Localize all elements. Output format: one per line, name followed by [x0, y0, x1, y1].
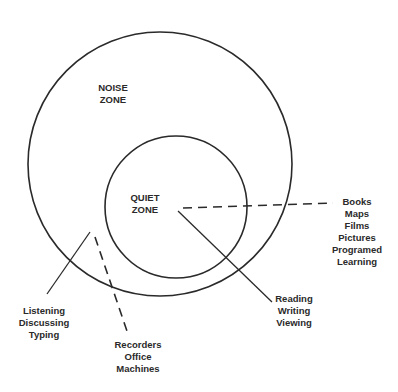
- noise-equipment-item: Recorders: [112, 339, 164, 351]
- noise-equipment-callout: Recorders Office Machines: [112, 339, 164, 375]
- noise-equipment-item: Office: [112, 351, 164, 363]
- quiet-zone-label: QUIET ZONE: [127, 192, 163, 216]
- quiet-activity-item: Viewing: [271, 317, 317, 329]
- noise-activity-item: Discussing: [15, 317, 73, 329]
- noise-zone-label-line: ZONE: [95, 94, 131, 106]
- quiet-activity-item: Reading: [271, 293, 317, 305]
- noise-zone-label-line: NOISE: [95, 82, 131, 94]
- noise-equipment-leader-line: [95, 237, 128, 334]
- media-item: Learning: [328, 256, 386, 268]
- quiet-activity-item: Writing: [271, 305, 317, 317]
- media-item: Programed: [328, 244, 386, 256]
- zone-diagram: NOISE ZONE QUIET ZONE Books Maps Films P…: [0, 0, 398, 392]
- noise-activity-item: Listening: [15, 305, 73, 317]
- media-item: Films: [328, 220, 386, 232]
- noise-activities-callout: Listening Discussing Typing: [15, 305, 73, 341]
- noise-activity-item: Typing: [15, 329, 73, 341]
- noise-zone-label: NOISE ZONE: [95, 82, 131, 106]
- media-callout: Books Maps Films Pictures Programed Lear…: [328, 196, 386, 268]
- noise-zone-circle: [28, 32, 292, 296]
- quiet-activities-callout: Reading Writing Viewing: [271, 293, 317, 329]
- media-item: Maps: [328, 208, 386, 220]
- quiet-zone-label-line: ZONE: [127, 204, 163, 216]
- noise-equipment-item: Machines: [112, 363, 164, 375]
- media-item: Books: [328, 196, 386, 208]
- quiet-activities-leader-line: [178, 211, 272, 302]
- quiet-zone-label-line: QUIET: [127, 192, 163, 204]
- media-leader-line: [183, 203, 333, 208]
- media-item: Pictures: [328, 232, 386, 244]
